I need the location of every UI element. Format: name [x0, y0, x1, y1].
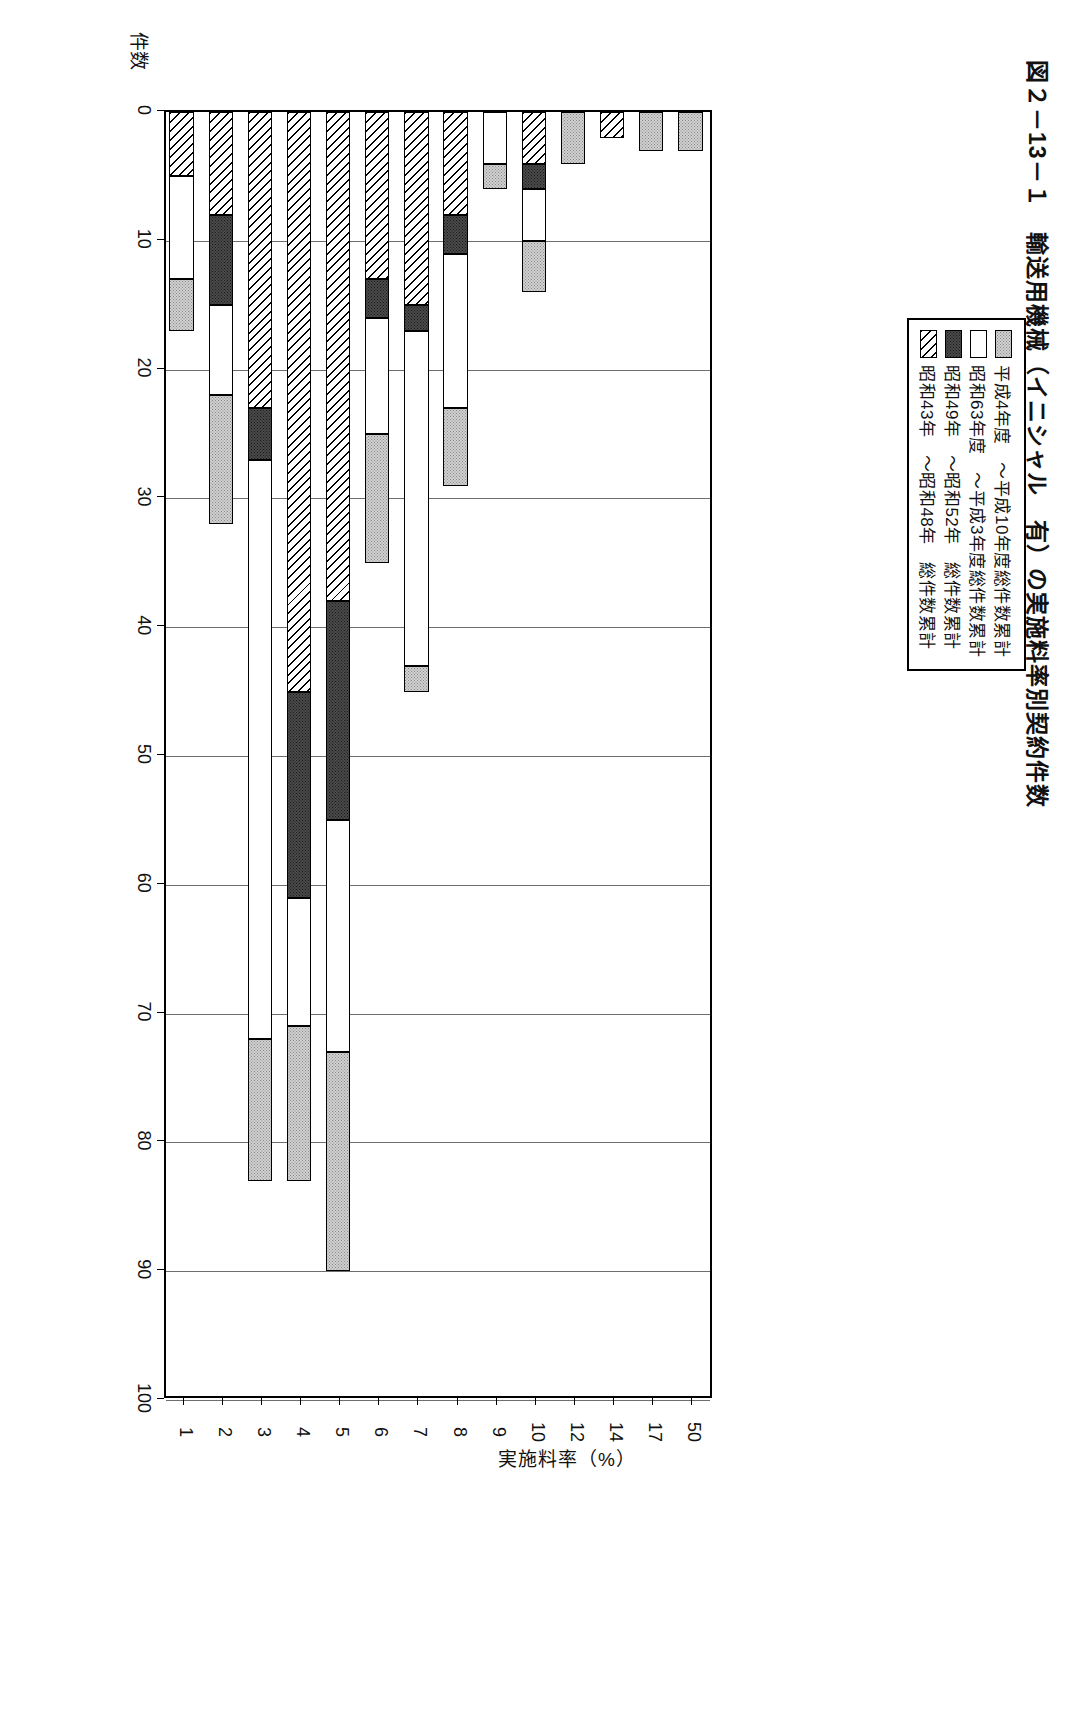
bar-segment [365, 434, 389, 563]
category-axis-tick [457, 1398, 458, 1405]
bar-segment [522, 164, 546, 190]
value-axis-tick-label: 70 [133, 982, 154, 1042]
bar-segment [365, 112, 389, 279]
value-axis-tick [157, 110, 164, 111]
bar-segment [326, 1052, 350, 1271]
bar-segment [404, 112, 428, 305]
category-axis-tick [417, 1398, 418, 1405]
legend-swatch-diagonal-hatch-icon [921, 330, 938, 358]
value-axis-tick-label: 50 [133, 724, 154, 784]
category-axis-tick-label: 6 [370, 1412, 391, 1452]
figure-title: 図２－13－１ 輸送用機械（イニシャル 有）の実施料率別契約件数 [1022, 60, 1056, 808]
bar-segment [600, 112, 624, 138]
category-axis-tick-label: 4 [292, 1412, 313, 1452]
value-axis-tick-label: 10 [133, 209, 154, 269]
bar-segment [248, 112, 272, 408]
category-axis-tick [378, 1398, 379, 1405]
category-axis-tick-label: 3 [253, 1412, 274, 1452]
bar-segment [248, 460, 272, 1040]
value-axis-tick-label: 40 [133, 595, 154, 655]
value-axis-tick [157, 496, 164, 497]
category-axis-tick-label: 5 [331, 1412, 352, 1452]
legend-item: 昭和63年度 ～平成3年度総件数累計 [967, 330, 991, 657]
legend-item: 昭和43年 ～昭和48年 総件数累計 [917, 330, 941, 657]
category-axis-tick-label: 8 [449, 1412, 470, 1452]
legend-item-label: 昭和63年度 ～平成3年度総件数累計 [967, 365, 992, 657]
bar-segment [404, 305, 428, 331]
bar-segment [287, 1026, 311, 1181]
legend-item-label: 昭和49年 ～昭和52年 総件数累計 [942, 365, 967, 650]
bar-segment [326, 820, 350, 1052]
gridline [166, 1271, 710, 1272]
bar-segment [483, 112, 507, 164]
bar-segment [326, 112, 350, 601]
value-axis-tick [157, 1140, 164, 1141]
value-axis-tick [157, 1269, 164, 1270]
value-axis-tick [157, 754, 164, 755]
category-axis-tick [574, 1398, 575, 1405]
plot-area-wrapper [164, 110, 712, 1398]
bar-segment [209, 112, 233, 215]
value-axis-tick [157, 239, 164, 240]
bar-segment [287, 692, 311, 898]
value-axis-tick-label: 20 [133, 338, 154, 398]
category-axis-tick [339, 1398, 340, 1405]
value-axis-tick [157, 883, 164, 884]
category-axis-tick-label: 1 [175, 1412, 196, 1452]
bar-segment [169, 112, 193, 176]
category-axis-tick [613, 1398, 614, 1405]
category-axis-title: 実施料率（%） [498, 1444, 636, 1471]
value-axis-tick [157, 625, 164, 626]
value-axis-tick [157, 1012, 164, 1013]
category-axis-tick-label: 2 [214, 1412, 235, 1452]
bar-segment [209, 305, 233, 395]
bar-segment [443, 215, 467, 254]
bar-segment [443, 254, 467, 409]
category-axis-tick [496, 1398, 497, 1405]
plot-area [164, 110, 712, 1398]
bar-segment [483, 164, 507, 190]
value-axis-tick [157, 368, 164, 369]
bar-segment [287, 112, 311, 692]
bar-segment [561, 112, 585, 164]
bar-segment [522, 112, 546, 164]
bar-segment [443, 112, 467, 215]
value-axis-tick-label: 30 [133, 466, 154, 526]
bar-segment [678, 112, 702, 151]
bar-segment [169, 279, 193, 331]
bar-segment [365, 318, 389, 434]
category-axis-tick-label: 50 [683, 1412, 704, 1452]
bar-segment [287, 898, 311, 1027]
value-axis-tick-label: 100 [133, 1368, 154, 1428]
bar-segment [639, 112, 663, 151]
legend-item: 平成4年度 ～平成10年度総件数累計 [992, 330, 1016, 657]
legend-swatch-white-icon [971, 330, 988, 358]
category-axis-tick [535, 1398, 536, 1405]
category-axis-tick [261, 1398, 262, 1405]
bar-segment [443, 408, 467, 485]
legend-swatch-dark-dotted-icon [946, 330, 963, 358]
category-axis-tick [300, 1398, 301, 1405]
bar-segment [248, 1039, 272, 1181]
bar-segment [404, 331, 428, 666]
bar-segment [326, 601, 350, 820]
rotated-figure-stage: 図２－13－１ 輸送用機械（イニシャル 有）の実施料率別契約件数 平成4年度 ～… [0, 0, 1084, 1732]
value-axis-title: 件数 [127, 32, 154, 70]
category-axis-tick [652, 1398, 653, 1405]
gridline [166, 1400, 710, 1401]
bar-segment [404, 666, 428, 692]
legend-item: 昭和49年 ～昭和52年 総件数累計 [942, 330, 966, 657]
chart-legend: 平成4年度 ～平成10年度総件数累計昭和63年度 ～平成3年度総件数累計昭和49… [907, 318, 1026, 671]
value-axis-tick-label: 90 [133, 1239, 154, 1299]
bar-segment [248, 408, 272, 460]
legend-item-label: 平成4年度 ～平成10年度総件数累計 [992, 365, 1017, 657]
bar-segment [209, 215, 233, 305]
legend-item-label: 昭和43年 ～昭和48年 総件数累計 [917, 365, 942, 650]
category-axis-tick-label: 17 [644, 1412, 665, 1452]
category-axis-tick [222, 1398, 223, 1405]
value-axis-tick [157, 1398, 164, 1399]
bar-segment [169, 176, 193, 279]
value-axis-tick-label: 60 [133, 853, 154, 913]
value-axis-tick-label: 80 [133, 1110, 154, 1170]
bar-segment [522, 189, 546, 241]
